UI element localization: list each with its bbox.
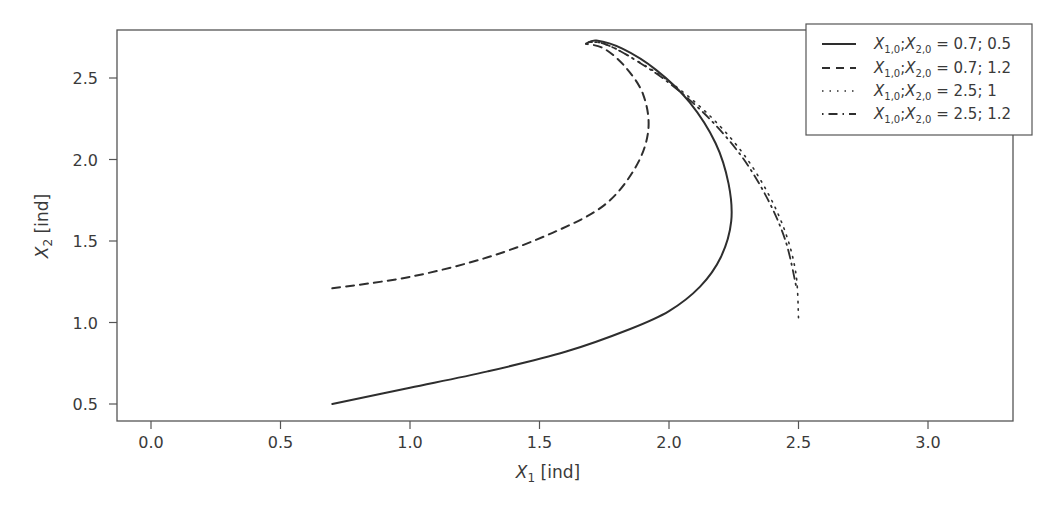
y-tick-label: 0.5: [73, 395, 98, 414]
y-tick-label: 2.5: [73, 69, 98, 88]
phase-plot: 0.00.51.01.52.02.53.0 0.51.01.52.02.5 X1…: [0, 0, 1064, 511]
x-tick-label: 1.0: [397, 433, 422, 452]
x-tick-label: 0.5: [268, 433, 293, 452]
series-line-solid: [332, 40, 731, 404]
x-axis-ticks: 0.00.51.01.52.02.53.0: [138, 421, 940, 452]
series-line-dotted: [589, 42, 799, 318]
x-tick-label: 0.0: [138, 433, 163, 452]
y-axis-ticks: 0.51.01.52.02.5: [73, 69, 117, 414]
series-line-dashed: [332, 44, 648, 288]
x-tick-label: 2.0: [656, 433, 681, 452]
x-tick-label: 2.5: [786, 433, 811, 452]
x-tick-label: 1.5: [527, 433, 552, 452]
y-tick-label: 1.5: [73, 232, 98, 251]
y-tick-label: 2.0: [73, 151, 98, 170]
x-axis-title: X1 [ind]: [515, 462, 580, 485]
x-tick-label: 3.0: [915, 433, 940, 452]
series-layer: [332, 40, 798, 404]
y-axis-title: X2 [ind]: [32, 194, 55, 259]
y-tick-label: 1.0: [73, 314, 98, 333]
series-line-dashdot: [589, 42, 796, 285]
legend: X1,0;X2,0 = 0.7; 0.5 X1,0;X2,0 = 0.7; 1.…: [806, 24, 1032, 135]
